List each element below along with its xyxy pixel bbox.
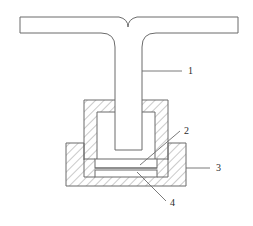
callout-labels: 1 2 3 4 (170, 65, 221, 208)
thin-plate-stack (95, 159, 157, 177)
upper-block-left-leg-hatch (84, 100, 97, 160)
upper-thin-plate (95, 159, 157, 168)
t-section-outline (20, 17, 238, 150)
t-section-workpiece (20, 17, 238, 150)
technical-diagram-figure: 1 2 3 4 (0, 0, 253, 226)
callout-label-4: 4 (170, 197, 175, 208)
cross-section-drawing: 1 2 3 4 (0, 0, 253, 226)
callout-label-3: 3 (216, 162, 221, 173)
upper-block-top-right-hatch (142, 100, 155, 112)
upper-block-top-left-hatch (97, 100, 115, 112)
callout-label-1: 1 (188, 65, 193, 76)
callout-label-2: 2 (184, 125, 189, 136)
lower-thin-plate (95, 170, 157, 177)
lower-block-floor-hatch (66, 177, 186, 186)
